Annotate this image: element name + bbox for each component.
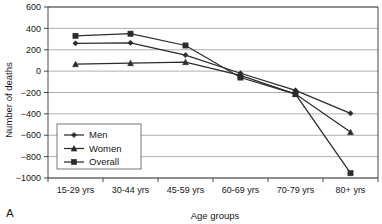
- y-tick-label: −200: [21, 88, 41, 98]
- x-tick-label: 80+ yrs: [336, 185, 366, 195]
- series-line: [76, 43, 351, 114]
- y-tick-label: −600: [21, 130, 41, 140]
- marker-square: [293, 92, 298, 97]
- x-axis-title: Age groups: [191, 210, 240, 221]
- figure-panel-a: 6004002000−200−400−600−800−1000 15-29 yr…: [0, 0, 382, 224]
- y-tick-label: 200: [26, 45, 41, 55]
- marker-diamond: [183, 52, 188, 57]
- marker-square: [73, 33, 78, 38]
- marker-square: [348, 171, 353, 176]
- y-tick-label: −800: [21, 152, 41, 162]
- marker-square: [71, 159, 76, 164]
- x-tickmarks: [48, 178, 378, 182]
- chart-legend: MenWomenOverall: [57, 124, 141, 169]
- y-tick-label: 400: [26, 24, 41, 34]
- x-tick-label: 45-59 yrs: [167, 185, 205, 195]
- y-tick-label: −400: [21, 109, 41, 119]
- marker-square: [128, 31, 133, 36]
- legend-label: Women: [89, 143, 122, 154]
- panel-label: A: [6, 207, 14, 219]
- y-tickmarks: [44, 7, 48, 178]
- series-line: [76, 62, 351, 132]
- x-tick-label: 60-69 yrs: [222, 185, 260, 195]
- legend-label: Overall: [89, 156, 119, 167]
- x-tick-label: 15-29 yrs: [57, 185, 95, 195]
- x-tick-label: 30-44 yrs: [112, 185, 150, 195]
- y-tick-label: 600: [26, 2, 41, 12]
- y-tick-label: −1000: [16, 173, 41, 183]
- legend-label: Men: [89, 129, 107, 140]
- marker-square: [183, 43, 188, 48]
- line-chart: 6004002000−200−400−600−800−1000 15-29 yr…: [0, 0, 382, 224]
- marker-square: [238, 75, 243, 80]
- marker-diamond: [73, 41, 78, 46]
- x-tick-labels: 15-29 yrs30-44 yrs45-59 yrs60-69 yrs70-7…: [57, 185, 366, 195]
- marker-diamond: [128, 40, 133, 45]
- marker-diamond: [348, 111, 353, 116]
- y-tick-label: 0: [36, 66, 41, 76]
- y-axis-title: Number of deaths: [3, 62, 14, 138]
- x-tick-label: 70-79 yrs: [277, 185, 315, 195]
- y-tick-labels: 6004002000−200−400−600−800−1000: [16, 2, 41, 183]
